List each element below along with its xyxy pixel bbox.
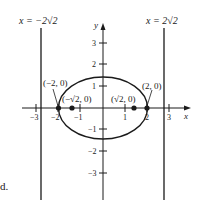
focus-right-label: (√2, 0) (111, 94, 135, 104)
focus-right-point (131, 105, 136, 110)
y-axis-label: y (93, 20, 98, 30)
asymptote-right-label: x = 2√2 (145, 15, 178, 26)
focus-left-label: (−√2, 0) (62, 94, 92, 104)
x-tick-label-neg1: −1 (74, 113, 83, 122)
y-tick-label-neg2: −2 (88, 147, 97, 156)
x-tick-label-2: 2 (145, 113, 149, 122)
y-tick-label-2: 2 (92, 60, 96, 69)
leader-left (53, 89, 58, 106)
leader-right (147, 90, 152, 106)
y-tick-label-neg3: −3 (88, 169, 97, 178)
ellipse-diagram: x = −2√2 x = 2√2 y x 3 2 1 −1 −2 −3 −3 −… (0, 0, 199, 204)
asymptote-left-label: x = −2√2 (18, 15, 57, 26)
vertex-left-point (56, 105, 61, 110)
part-label: d. (0, 180, 9, 192)
y-tick-label-neg1: −1 (88, 125, 97, 134)
y-axis-arrow-icon (101, 23, 106, 30)
x-tick-label-1: 1 (123, 113, 127, 122)
x-tick-label-neg2: −2 (51, 113, 60, 122)
x-axis-arrow-icon (184, 106, 191, 111)
vertex-right-label: (2, 0) (142, 81, 162, 91)
y-tick-label-3: 3 (92, 39, 96, 48)
y-tick-label-1: 1 (92, 82, 96, 91)
focus-left-point (69, 105, 74, 110)
x-tick-label-neg3: −3 (30, 113, 39, 122)
vertex-right-point (144, 105, 149, 110)
vertex-left-label: (−2, 0) (43, 78, 68, 88)
x-tick-label-3: 3 (167, 113, 171, 122)
x-axis-label: x (183, 111, 188, 121)
